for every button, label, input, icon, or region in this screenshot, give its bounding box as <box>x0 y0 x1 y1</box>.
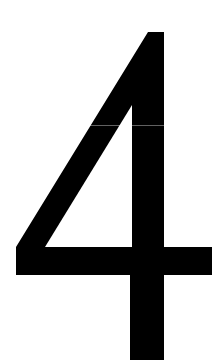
scanned-page: 4 <box>0 0 219 360</box>
numeral-four-glyph <box>0 0 219 360</box>
